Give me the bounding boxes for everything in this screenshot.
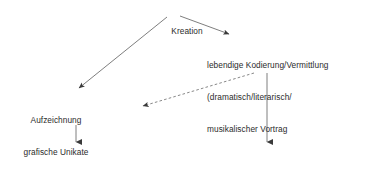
diagram-canvas: Kreation lebendige Kodierung/Vermittlung… [0,0,367,171]
node-rezeption-right: Rezeption [231,150,303,171]
node-lebendige-kodierung-line-2: (dramatisch/literarisch/ [207,92,365,103]
node-lebendige-kodierung: lebendige Kodierung/Vermittlung (dramati… [207,38,365,157]
node-kreation-line-1: Kreation [151,26,223,37]
node-lebendige-kodierung-line-3: musikalischer Vortrag [207,124,365,135]
node-rezeption-left: Rezeption [40,150,112,171]
node-aufzeichnung-line-1: Aufzeichnung [4,115,108,126]
node-lebendige-kodierung-line-1: lebendige Kodierung/Vermittlung [207,60,365,71]
